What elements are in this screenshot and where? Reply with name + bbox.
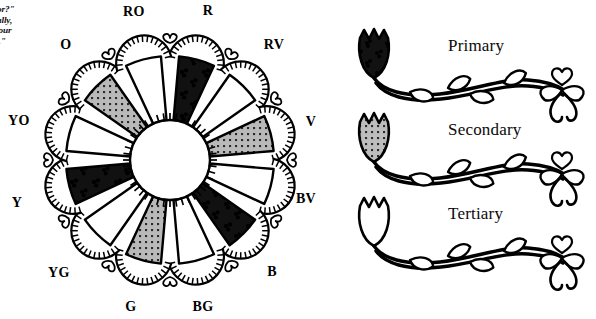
wheel-label-yo: YO (8, 113, 30, 129)
legend-art-group (359, 29, 583, 290)
legend-label-secondary: Secondary (448, 120, 522, 140)
legend-label-tertiary: Tertiary (448, 204, 503, 224)
white-tulip-icon (359, 197, 389, 246)
illustration-page: color?" refully, ct your ods." (0, 0, 596, 319)
leaf-icon (408, 254, 435, 273)
wheel-label-g: G (125, 299, 136, 315)
dark-tulip-icon (359, 29, 389, 78)
wheel-label-bg: BG (192, 299, 213, 315)
leaf-icon (408, 170, 435, 189)
wheel-label-v: V (306, 114, 317, 130)
color-wheel: RORRVVBVBBGGYGYYOO (0, 0, 340, 319)
wheel-label-bv: BV (296, 191, 316, 207)
leaf-icon (408, 86, 435, 105)
wheel-label-yg: YG (48, 265, 70, 281)
wheel-label-r: R (203, 3, 214, 19)
wheel-label-b: B (267, 264, 277, 280)
wheel-label-y: Y (12, 195, 23, 211)
wheel-label-ro: RO (123, 4, 145, 20)
legend-label-primary: Primary (448, 36, 504, 56)
wheel-label-o: O (60, 37, 71, 53)
legend: PrimarySecondaryTertiary (352, 0, 596, 319)
wheel-label-rv: RV (264, 37, 285, 53)
gray-tulip-icon (359, 113, 389, 162)
